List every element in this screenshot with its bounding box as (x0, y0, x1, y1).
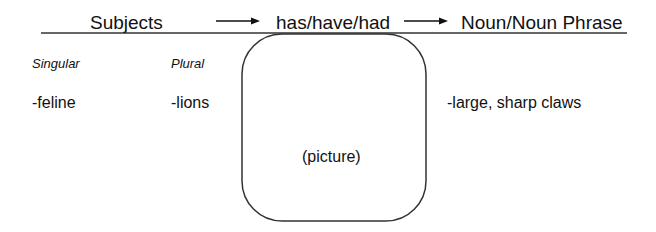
singular-item: -feline (32, 94, 76, 112)
singular-label: Singular (32, 56, 80, 71)
right-arrow-icon (404, 18, 448, 25)
verb-heading: has/have/had (276, 12, 390, 34)
noun-phrase-item: -large, sharp claws (447, 94, 581, 112)
picture-placeholder: (picture) (302, 148, 361, 166)
subjects-heading: Subjects (90, 12, 163, 34)
plural-label: Plural (171, 56, 204, 71)
right-arrow-icon (216, 18, 260, 25)
noun-heading: Noun/Noun Phrase (461, 12, 623, 34)
plural-item: -lions (171, 94, 209, 112)
picture-box (242, 34, 426, 221)
diagram-lines (0, 0, 656, 232)
